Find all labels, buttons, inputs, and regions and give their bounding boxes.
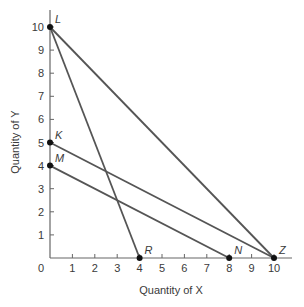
tick-marks: 1234567891012345678910 bbox=[32, 21, 280, 274]
point-label-m: M bbox=[55, 152, 65, 164]
point-label-k: K bbox=[55, 129, 63, 141]
budget-line-chart: 1234567891012345678910 LKMRNZ Quantity o… bbox=[0, 0, 304, 307]
point-label-n: N bbox=[234, 244, 242, 256]
y-axis-label: Quantity of Y bbox=[9, 110, 21, 174]
x-tick-label: 4 bbox=[137, 262, 143, 274]
x-tick-label: 2 bbox=[92, 262, 98, 274]
x-axis-label: Quantity of X bbox=[139, 284, 203, 296]
y-tick-label: 6 bbox=[38, 113, 44, 125]
y-tick-label: 9 bbox=[38, 44, 44, 56]
origin-label: 0 bbox=[38, 262, 44, 274]
x-tick-label: 5 bbox=[159, 262, 165, 274]
x-tick-label: 3 bbox=[114, 262, 120, 274]
point-k bbox=[47, 140, 53, 146]
x-tick-label: 9 bbox=[249, 262, 255, 274]
budget-lines bbox=[50, 27, 274, 258]
x-tick-label: 10 bbox=[268, 262, 280, 274]
y-tick-label: 10 bbox=[32, 21, 44, 33]
point-n bbox=[226, 255, 232, 261]
x-tick-label: 1 bbox=[69, 262, 75, 274]
point-label-l: L bbox=[55, 13, 61, 25]
point-m bbox=[47, 163, 53, 169]
y-tick-label: 1 bbox=[38, 229, 44, 241]
y-tick-label: 4 bbox=[38, 160, 44, 172]
axes bbox=[50, 10, 292, 258]
point-z bbox=[271, 255, 277, 261]
budget-line-mn bbox=[50, 166, 229, 258]
point-label-z: Z bbox=[278, 244, 287, 256]
y-tick-label: 3 bbox=[38, 183, 44, 195]
y-tick-label: 8 bbox=[38, 67, 44, 79]
y-tick-label: 7 bbox=[38, 90, 44, 102]
x-tick-label: 6 bbox=[181, 262, 187, 274]
x-tick-label: 7 bbox=[204, 262, 210, 274]
budget-line-lr bbox=[50, 27, 140, 258]
y-tick-label: 5 bbox=[38, 137, 44, 149]
y-tick-label: 2 bbox=[38, 206, 44, 218]
point-r bbox=[137, 255, 143, 261]
x-tick-label: 8 bbox=[226, 262, 232, 274]
point-label-r: R bbox=[145, 244, 153, 256]
point-l bbox=[47, 24, 53, 30]
budget-line-kz bbox=[50, 143, 274, 259]
data-points: LKMRNZ bbox=[47, 13, 287, 261]
